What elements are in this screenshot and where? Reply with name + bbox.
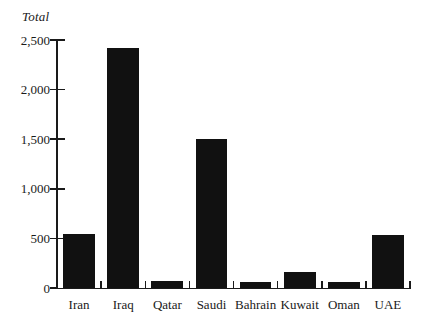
x-label-bahrain: Bahrain (234, 298, 278, 311)
x-label-saudi: Saudi (189, 298, 233, 311)
bar-saudi (196, 139, 228, 288)
y-tick-label: 500 (2, 232, 50, 245)
y-tick-label-wrap: 2,000 (0, 83, 50, 96)
x-label-iraq: Iraq (101, 298, 145, 311)
y-tick-label: 1,500 (2, 133, 50, 146)
y-axis-title: Total (22, 9, 49, 25)
x-label-uae: UAE (366, 298, 410, 311)
y-tick-label: 2,000 (2, 83, 50, 96)
x-label-kuwait: Kuwait (278, 298, 322, 311)
bar-bahrain (240, 282, 272, 288)
y-tick-label-wrap: 1,500 (0, 133, 50, 146)
bar-oman (328, 282, 360, 288)
y-tick-label-wrap: 1,000 (0, 182, 50, 195)
y-tick-label: 0 (2, 282, 50, 295)
bar-uae (372, 235, 404, 288)
y-tick-label: 2,500 (2, 34, 50, 47)
x-label-iran: Iran (57, 298, 101, 311)
x-label-oman: Oman (322, 298, 366, 311)
y-tick-label-wrap: 500 (0, 232, 50, 245)
y-tick-label-wrap: 2,500 (0, 34, 50, 47)
bar-kuwait (284, 272, 316, 288)
y-tick-label-wrap: 0 (0, 282, 50, 295)
bar-qatar (151, 281, 183, 288)
y-tick-label: 1,000 (2, 182, 50, 195)
bar-iraq (107, 48, 139, 288)
bar-chart: Total 05001,0001,5002,0002,500 IranIraqQ… (0, 0, 428, 330)
bar-iran (63, 234, 95, 288)
x-label-qatar: Qatar (145, 298, 189, 311)
bars-layer (57, 40, 410, 288)
